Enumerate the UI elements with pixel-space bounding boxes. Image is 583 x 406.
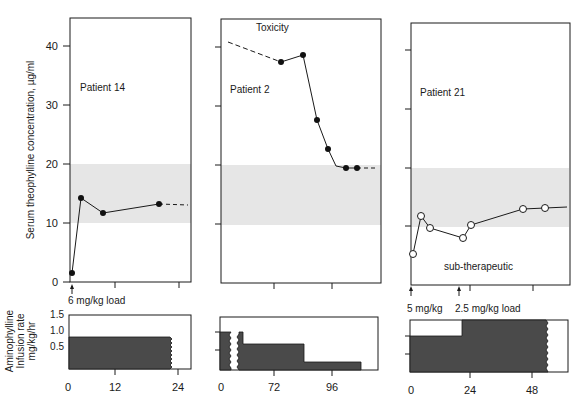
x-tick-labels: 0 24 48 — [408, 384, 538, 396]
infusion-bar — [220, 332, 231, 370]
load-arrow-icon — [409, 286, 461, 296]
plot-frame — [411, 23, 570, 285]
infusion-bar — [237, 332, 361, 370]
x-tick-labels: 0 12 24 — [65, 381, 184, 393]
panel-patient-2: Toxicity Patient 2 0 72 96 — [215, 19, 381, 393]
load-label: 6 mg/kg load — [68, 295, 125, 306]
dashed-extension — [228, 42, 281, 62]
svg-text:40: 40 — [46, 40, 58, 52]
therapeutic-band — [411, 168, 569, 227]
plot-frame — [221, 19, 381, 283]
toxicity-label: Toxicity — [256, 22, 289, 33]
panel-patient-14: Patient 14 6 mg/kg load 0 12 24 — [63, 18, 191, 393]
figure-canvas: Serum theophylline concentration, µg/ml … — [0, 0, 583, 406]
therapeutic-band — [70, 164, 191, 223]
svg-text:20: 20 — [46, 158, 58, 170]
data-points — [278, 52, 360, 171]
svg-text:1.0: 1.0 — [50, 325, 64, 336]
y-axis-label-bottom-1: Aminophylline — [4, 309, 15, 372]
svg-text:0: 0 — [65, 381, 71, 393]
svg-text:72: 72 — [268, 381, 280, 393]
svg-text:48: 48 — [526, 384, 538, 396]
svg-text:0: 0 — [52, 276, 58, 288]
svg-text:10: 10 — [46, 217, 58, 229]
x-tick-labels: 0 72 96 — [218, 381, 338, 393]
svg-text:12: 12 — [109, 381, 121, 393]
svg-text:0: 0 — [218, 381, 224, 393]
subtherapeutic-label: sub-therapeutic — [444, 261, 513, 272]
y-axis-label-top: Serum theophylline concentration, µg/ml — [25, 61, 36, 240]
load-label-1: 5 mg/kg — [407, 303, 443, 314]
y-axis-label-bottom-2: Infusion rate — [15, 313, 26, 368]
plot-frame — [70, 18, 191, 282]
svg-text:1.5: 1.5 — [50, 309, 64, 320]
svg-text:24: 24 — [464, 384, 476, 396]
infusion-bar — [69, 337, 172, 369]
svg-text:0.5: 0.5 — [50, 341, 64, 352]
svg-text:24: 24 — [172, 381, 184, 393]
infusion-bar — [410, 320, 548, 372]
svg-text:96: 96 — [326, 381, 338, 393]
load-label-2: 2.5 mg/kg load — [455, 303, 521, 314]
patient-label: Patient 2 — [230, 84, 270, 95]
concentration-line — [281, 55, 357, 168]
patient-label: Patient 14 — [80, 82, 125, 93]
panel-patient-21: Patient 21 sub-therapeutic 5 mg/kg 2.5 m… — [405, 23, 570, 396]
top-y-ticks: 40 30 20 10 0 — [46, 40, 58, 288]
svg-text:30: 30 — [46, 99, 58, 111]
therapeutic-band — [221, 165, 381, 225]
bottom-y-ticks: 1.5 1.0 0.5 — [50, 309, 64, 352]
y-axis-label-bottom-3: mg/kg/hr — [26, 321, 37, 361]
svg-text:0: 0 — [408, 384, 414, 396]
load-arrow-icon — [70, 284, 74, 294]
patient-label: Patient 21 — [420, 87, 465, 98]
